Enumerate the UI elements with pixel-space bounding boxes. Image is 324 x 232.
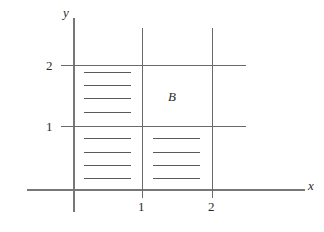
gridline-x-equals-1 <box>142 28 143 198</box>
x-axis-label: x <box>308 179 314 192</box>
region-label-b: B <box>168 90 176 103</box>
hatch-line <box>84 85 131 86</box>
hatch-line <box>84 178 131 179</box>
hatch-line <box>153 138 200 139</box>
hatch-line <box>153 152 200 153</box>
hatch-line <box>84 152 131 153</box>
gridline-y-equals-1 <box>61 126 246 127</box>
y-tick-label-1: 1 <box>46 120 53 133</box>
x-tick-label-2: 2 <box>208 200 215 213</box>
x-tick-label-1: 1 <box>138 200 145 213</box>
x-axis-line <box>27 189 305 191</box>
hatch-line <box>153 165 200 166</box>
hatch-line <box>84 138 131 139</box>
hatch-line <box>84 98 131 99</box>
y-axis-line <box>73 18 75 212</box>
gridline-y-equals-2 <box>61 65 246 66</box>
gridline-x-equals-2 <box>212 28 213 198</box>
hatch-line <box>84 112 131 113</box>
hatch-line <box>84 165 131 166</box>
hatch-line <box>153 178 200 179</box>
coordinate-plane-diagram: x y 2 1 1 2 B <box>0 0 324 232</box>
y-axis-label: y <box>63 6 69 19</box>
hatch-line <box>84 72 131 73</box>
y-tick-label-2: 2 <box>46 59 53 72</box>
